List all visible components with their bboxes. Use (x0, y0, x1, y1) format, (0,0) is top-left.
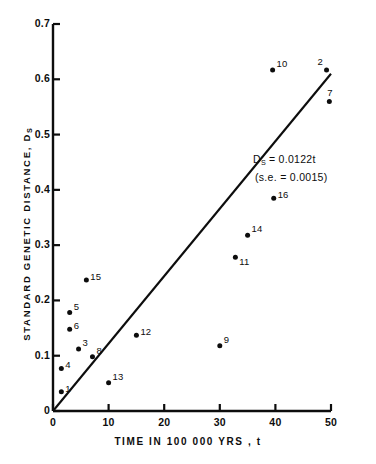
data-point-marker (324, 67, 329, 72)
y-tick-label: 0.5 (35, 128, 50, 140)
scatter-plot-figure: 00.10.20.30.40.50.60.7 01020304050 14563… (0, 0, 376, 464)
x-tick-label: 40 (255, 416, 295, 428)
regression-equation-rest: = 0.0122t (266, 153, 316, 165)
data-point-marker (245, 233, 250, 238)
data-point-label: 4 (65, 359, 70, 370)
data-point-marker (76, 347, 81, 352)
data-point-marker (327, 99, 332, 104)
regression-standard-error: (s.e. = 0.0015) (253, 170, 328, 184)
y-tick-label: 0.4 (35, 183, 50, 195)
y-tick-label: 0.2 (35, 293, 50, 305)
data-point-marker (67, 310, 72, 315)
data-point-marker (233, 255, 238, 260)
y-axis-title-text: STANDARD GENETIC DISTANCE, D (21, 133, 32, 341)
data-point-label: 1 (65, 383, 70, 394)
data-point-label: 14 (252, 223, 263, 234)
x-axis-title-text: TIME IN 100 000 YRS , t (114, 436, 261, 447)
data-point-label: 10 (277, 58, 288, 69)
data-point-label: 9 (224, 334, 229, 345)
x-tick-label: 50 (311, 416, 351, 428)
regression-line (53, 74, 331, 411)
regression-equation-symbol: D (253, 153, 261, 165)
data-point-label: 16 (278, 189, 289, 200)
y-tick-label: 0.6 (35, 72, 50, 84)
y-tick-label: 0.1 (35, 349, 50, 361)
axis-lines (53, 24, 331, 411)
y-axis-title-subscript: S (25, 128, 34, 133)
x-axis-title: TIME IN 100 000 YRS , t (0, 436, 376, 447)
data-point-marker (134, 333, 139, 338)
y-tick-label: 0.3 (35, 238, 50, 250)
data-point-label: 7 (327, 87, 332, 98)
data-point-label: 11 (239, 256, 249, 267)
data-point-marker (59, 389, 64, 394)
data-point-label: 2 (318, 56, 323, 67)
data-point-label: 12 (140, 326, 151, 337)
x-tick-label: 30 (200, 416, 240, 428)
data-point-marker (90, 354, 95, 359)
x-tick-label: 10 (89, 416, 129, 428)
data-point-marker (270, 67, 275, 72)
plot-canvas (0, 0, 376, 464)
y-tick-label: 0 (44, 404, 50, 416)
regression-fit-line (53, 74, 331, 411)
data-point-label: 6 (74, 320, 79, 331)
data-point-label: 5 (74, 301, 79, 312)
x-tick-label: 20 (144, 416, 184, 428)
data-point-marker (59, 366, 64, 371)
x-tick-label: 0 (33, 416, 73, 428)
data-point-label: 8 (96, 345, 101, 356)
regression-equation: DS = 0.0122t (253, 152, 328, 170)
y-tick-label: 0.7 (35, 17, 50, 29)
data-point-label: 15 (90, 271, 101, 282)
y-axis-title: STANDARD GENETIC DISTANCE, DS (21, 85, 34, 385)
data-point-marker (84, 277, 89, 282)
data-point-marker (67, 327, 72, 332)
data-point-label: 13 (113, 371, 124, 382)
data-point-marker (271, 196, 276, 201)
data-point-marker (106, 380, 111, 385)
data-point-marker (217, 343, 222, 348)
regression-annotation: DS = 0.0122t (s.e. = 0.0015) (253, 152, 328, 184)
data-point-label: 3 (83, 337, 88, 348)
